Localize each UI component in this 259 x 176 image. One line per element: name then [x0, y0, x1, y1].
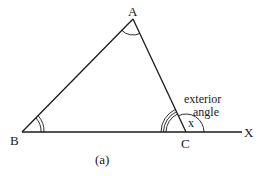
triangle-diagram: A B C X x exterior angle (a)	[0, 0, 259, 176]
angle-c-arc-3	[161, 109, 175, 132]
angle-a-arc	[122, 30, 140, 35]
vertex-label-b: B	[10, 133, 19, 148]
exterior-label-line2: angle	[193, 105, 219, 119]
vertex-label-a: A	[128, 4, 138, 19]
vertex-label-x: X	[244, 125, 254, 140]
exterior-label-line1: exterior	[184, 92, 221, 106]
vertex-label-c: C	[181, 136, 190, 151]
caption: (a)	[95, 152, 109, 167]
angle-b-arc-1	[36, 118, 41, 132]
angle-c-arc-2	[164, 112, 177, 132]
side-ab	[22, 19, 133, 132]
angle-c-arc-1	[166, 114, 178, 132]
side-ac	[133, 19, 186, 132]
